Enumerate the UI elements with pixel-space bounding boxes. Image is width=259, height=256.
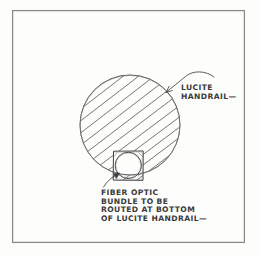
handrail-callout-line-1: LUCITE (181, 83, 213, 92)
fiber-optic-callout-line-4: OF LUCITE HANDRAIL— (101, 214, 207, 223)
sketch-drawing: LUCITE HANDRAIL— FIBER OPTIC BUNDLE TO B… (0, 0, 259, 256)
sketch-canvas: LUCITE HANDRAIL— FIBER OPTIC BUNDLE TO B… (0, 0, 259, 256)
handrail-callout-line-2: HANDRAIL— (181, 92, 236, 101)
